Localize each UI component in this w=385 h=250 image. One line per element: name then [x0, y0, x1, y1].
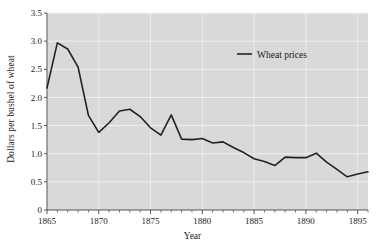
chart-figure: 00.51.01.52.02.53.03.5 18651870187518801… — [0, 0, 385, 250]
y-tick-label: 3.5 — [31, 8, 43, 18]
y-tick-label: 2.5 — [31, 64, 43, 74]
legend-label-wheat-prices: Wheat prices — [257, 50, 307, 60]
y-tick-label: 1.0 — [31, 149, 43, 159]
x-tick-label: 1875 — [142, 216, 161, 226]
y-tick-label: 2.0 — [31, 93, 43, 103]
y-tick-label: 3.0 — [31, 36, 43, 46]
x-tick-label: 1865 — [38, 216, 57, 226]
x-axis-major-ticks — [47, 210, 358, 214]
y-tick-label: 0.5 — [31, 177, 43, 187]
x-axis-tick-labels: 1865187018751880188518901895 — [38, 216, 367, 226]
y-axis-tick-labels: 00.51.01.52.02.53.03.5 — [31, 8, 43, 215]
x-axis-title: Year — [0, 231, 385, 241]
y-tick-label: 0 — [38, 205, 43, 215]
y-tick-label: 1.5 — [31, 121, 43, 131]
x-tick-label: 1885 — [245, 216, 264, 226]
x-tick-label: 1880 — [193, 216, 212, 226]
x-tick-label: 1870 — [90, 216, 109, 226]
wheat-prices-line-chart: 00.51.01.52.02.53.03.5 18651870187518801… — [0, 0, 385, 250]
x-tick-label: 1895 — [349, 216, 368, 226]
x-tick-label: 1890 — [297, 216, 316, 226]
plot-area-background — [47, 13, 368, 210]
